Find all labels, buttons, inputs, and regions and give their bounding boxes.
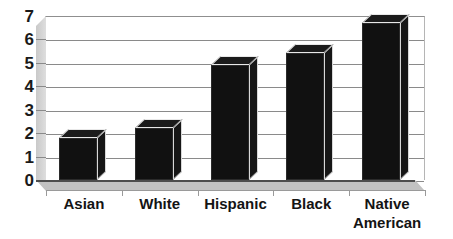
x-axis-label-line: Black <box>273 194 349 213</box>
bar-asian[interactable] <box>59 138 97 180</box>
bar-front-face <box>59 138 97 180</box>
x-axis-tickmark <box>425 190 426 196</box>
x-axis-label-native-american: NativeAmerican <box>349 194 425 232</box>
x-axis-label-line: White <box>122 194 198 213</box>
wall-tick-line <box>36 16 46 17</box>
x-axis-label-black: Black <box>273 194 349 213</box>
y-axis-labels: 76543210 <box>8 0 34 239</box>
bar-black[interactable] <box>286 53 324 180</box>
bar-side-face <box>324 45 333 180</box>
x-axis-label-asian: Asian <box>46 194 122 213</box>
x-axis-label-white: White <box>122 194 198 213</box>
bar-front-face <box>362 23 400 180</box>
y-axis-tick-label: 7 <box>12 8 34 25</box>
x-axis-baseline <box>36 180 415 182</box>
y-axis-tick-label: 1 <box>12 148 34 165</box>
x-axis-label-line: Native <box>349 194 425 213</box>
bar-chart-figure: 76543210 AsianWhiteHispanicBlackNativeAm… <box>0 0 453 239</box>
x-axis-label-line: Asian <box>46 194 122 213</box>
y-axis-tick-label: 5 <box>12 54 34 71</box>
y-axis-tick-label: 4 <box>12 78 34 95</box>
x-axis-label-line: American <box>349 213 425 232</box>
y-axis-tick-label: 2 <box>12 125 34 142</box>
bar-front-face <box>211 65 249 180</box>
x-axis-label-line: Hispanic <box>198 194 274 213</box>
chart-left-wall <box>36 16 46 180</box>
wall-tick-line <box>36 110 46 111</box>
chart-area: 76543210 AsianWhiteHispanicBlackNativeAm… <box>0 0 453 239</box>
chart-floor-front-edge <box>46 190 425 191</box>
bar-front-face <box>286 53 324 180</box>
bar-side-face <box>97 129 106 180</box>
bar-native-american[interactable] <box>362 23 400 180</box>
bar-side-face <box>173 120 182 180</box>
y-axis-tick-label: 0 <box>12 172 34 189</box>
bar-side-face <box>400 15 409 180</box>
x-axis-label-hispanic: Hispanic <box>198 194 274 213</box>
wall-tick-line <box>36 39 46 40</box>
wall-tick-line <box>36 157 46 158</box>
bar-hispanic[interactable] <box>211 65 249 180</box>
bar-front-face <box>135 128 173 180</box>
wall-tick-line <box>36 63 46 64</box>
bar-white[interactable] <box>135 128 173 180</box>
wall-tick-line <box>36 133 46 134</box>
y-axis-tick-label: 6 <box>12 31 34 48</box>
wall-tick-line <box>36 86 46 87</box>
y-axis-tick-label: 3 <box>12 101 34 118</box>
bar-side-face <box>249 57 258 180</box>
